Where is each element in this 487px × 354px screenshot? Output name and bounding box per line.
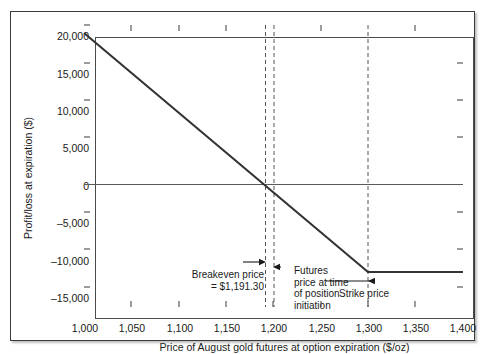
x-tick-label-1050: 1,050	[119, 323, 145, 334]
x-tick-label-1000: 1,000	[72, 323, 98, 334]
figure-frame: 20,000 15,000 10,000 5,000 0 –5,000 –10,…	[10, 11, 475, 341]
x-axis-title: Price of August gold futures at option e…	[95, 341, 474, 353]
plot-area	[95, 37, 474, 319]
y-tick-label-15000: 15,000	[57, 69, 89, 80]
y-tick-label-5000: 5,000	[63, 143, 89, 154]
strike-annotation-label: Strike price	[339, 288, 389, 300]
y-tick-label-neg10000: –10,000	[51, 256, 89, 267]
y-tick-label-10000: 10,000	[57, 106, 89, 117]
breakeven-annotation-line2: = $1,191.30	[174, 281, 264, 293]
x-tick-label-1350: 1,350	[403, 323, 429, 334]
y-axis-title: Profit/loss at expiration ($)	[22, 98, 34, 258]
strike-price-annotation: Strike price	[339, 288, 389, 300]
x-tick-label-1200: 1,200	[261, 323, 287, 334]
breakeven-annotation-line1: Breakeven price	[174, 269, 264, 281]
y-tick-label-neg5000: –5,000	[57, 218, 89, 229]
breakeven-price-annotation: Breakeven price = $1,191.30	[174, 269, 264, 292]
x-tick-label-1300: 1,300	[356, 323, 382, 334]
futures-annotation-line1: Futures	[294, 265, 364, 277]
futures-annotation-line2: price at time	[294, 277, 364, 289]
x-tick-label-1150: 1,150	[214, 323, 240, 334]
futures-annotation-line4: initiation	[294, 300, 364, 312]
x-tick-label-1250: 1,250	[309, 323, 335, 334]
y-tick-label-0: 0	[83, 181, 89, 192]
x-tick-label-1100: 1,100	[167, 323, 193, 334]
y-tick-label-20000: 20,000	[57, 31, 89, 42]
x-tick-label-1400: 1,400	[450, 323, 476, 334]
y-tick-label-neg15000: –15,000	[51, 293, 89, 304]
